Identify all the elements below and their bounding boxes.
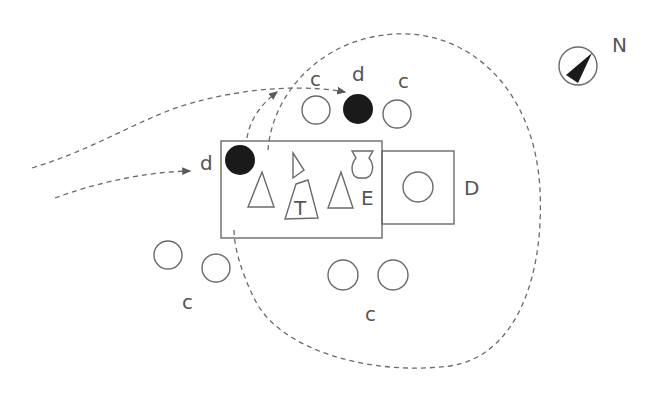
label-c-bottom-left: c [182,290,193,314]
vase-icon [352,151,373,178]
annex-d-square [382,151,454,224]
enclosure-boundary-dashed [234,34,540,368]
label-D: D [464,176,479,200]
flow-path-upper [32,88,345,168]
open-circle-c [378,260,408,290]
label-d-top: d [352,62,365,86]
filled-circle-d [343,94,373,124]
open-circle-c [154,241,182,269]
label-c-top-right: c [398,69,409,93]
label-c-top-left: c [310,67,321,91]
label-d-left: d [200,151,213,175]
triangle-right [328,172,353,208]
triangle-small-top [293,153,304,178]
flow-path-lower [55,171,190,198]
filled-circle-d [225,145,255,175]
label-E: E [361,186,374,210]
open-circle-c [328,260,358,290]
flow-path-hall-to-top [247,92,277,138]
label-north: N [612,33,627,57]
open-circle-c [383,100,411,128]
open-circle-c [202,254,230,282]
open-circle-c [403,172,433,202]
label-c-bottom-right: c [365,302,376,326]
north-arrow-compass [559,47,597,85]
label-T: T [293,196,307,220]
compass-needle-icon [566,53,592,83]
site-plan-diagram: N c d c d T E D c c [0,0,652,406]
open-circle-c [302,96,330,124]
triangle-left [248,172,274,207]
